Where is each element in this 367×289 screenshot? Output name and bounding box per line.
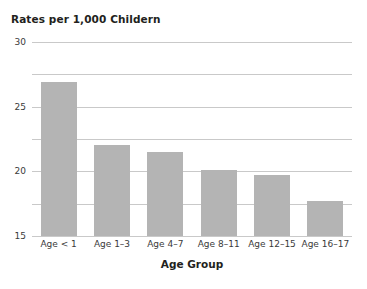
y-axis-tick-label: 15 [15, 231, 26, 241]
x-axis-tick-label: Age 12–15 [245, 239, 298, 249]
bar-chart-figure: Rates per 1,000 Childern 051015202530 Ag… [0, 0, 367, 289]
bar-slot [245, 42, 298, 236]
bar [94, 145, 130, 236]
x-axis-tick-label: Age 4–7 [139, 239, 192, 249]
bar [41, 82, 77, 236]
bar [201, 170, 237, 236]
y-axis-tick-label: 25 [15, 102, 26, 112]
bars-layer [32, 42, 352, 236]
bar [147, 152, 183, 236]
x-axis-tick-label: Age 1–3 [85, 239, 138, 249]
gridline: 0 [32, 236, 352, 237]
y-axis-tick-label: 30 [15, 37, 26, 47]
bar-slot [299, 42, 352, 236]
bar-slot [192, 42, 245, 236]
x-axis-tick-label: Age < 1 [32, 239, 85, 249]
plot-area: 051015202530 [32, 42, 352, 236]
chart-title: Rates per 1,000 Childern [11, 13, 161, 25]
x-axis-tick-label: Age 8–11 [192, 239, 245, 249]
bar [254, 175, 290, 236]
bar-slot [85, 42, 138, 236]
bar [307, 201, 343, 236]
y-axis-tick-label: 20 [15, 166, 26, 176]
bar-slot [32, 42, 85, 236]
bar-slot [139, 42, 192, 236]
x-axis-tick-label: Age 16–17 [299, 239, 352, 249]
x-axis-tick-labels: Age < 1Age 1–3Age 4–7Age 8–11Age 12–15Ag… [32, 239, 352, 255]
x-axis-title: Age Group [32, 258, 352, 270]
